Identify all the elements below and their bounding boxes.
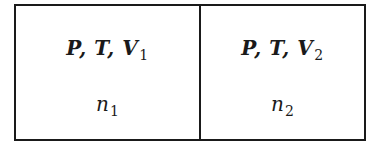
compartment-2-state-variables: P, T, V2 — [201, 36, 364, 60]
moles-symbol: n — [96, 92, 109, 116]
compartment-1-state-variables: P, T, V1 — [16, 36, 199, 60]
compartment-2-moles: n2 — [201, 92, 364, 116]
container-box: P, T, V1 n1 P, T, V2 n2 — [14, 4, 366, 141]
state-vars-text: P, T, V — [66, 36, 138, 60]
compartment-2: P, T, V2 n2 — [201, 6, 364, 139]
moles-subscript: 1 — [110, 103, 119, 119]
volume-subscript: 1 — [139, 47, 148, 63]
moles-symbol: n — [271, 92, 284, 116]
moles-subscript: 2 — [285, 103, 294, 119]
compartment-1: P, T, V1 n1 — [16, 6, 201, 139]
compartment-1-moles: n1 — [16, 92, 199, 116]
volume-subscript: 2 — [314, 47, 323, 63]
state-vars-text: P, T, V — [241, 36, 313, 60]
